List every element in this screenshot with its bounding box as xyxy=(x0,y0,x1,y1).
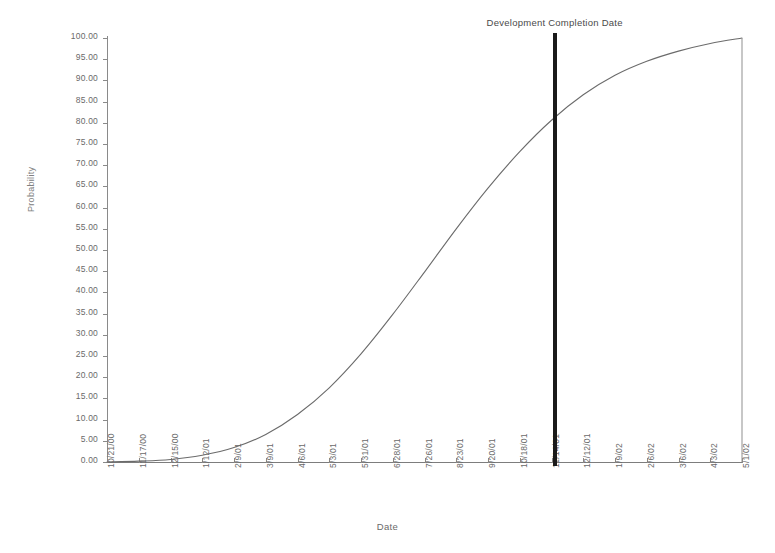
development-completion-marker-label: Development Completion Date xyxy=(487,17,623,28)
curve-layer xyxy=(0,0,775,553)
development-completion-marker-line xyxy=(553,33,557,466)
cumulative-probability-curve xyxy=(107,38,742,462)
probability-s-curve-chart: Probability Date 0.005.0010.0015.0020.00… xyxy=(0,0,775,553)
